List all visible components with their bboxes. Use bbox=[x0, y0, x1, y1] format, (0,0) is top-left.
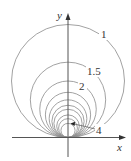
level-label-2: 2 bbox=[79, 80, 85, 92]
x-axis-arrow-icon bbox=[119, 135, 126, 140]
axes bbox=[12, 13, 126, 157]
x-axis-label: x bbox=[116, 141, 122, 153]
level-curves-diagram: y x 1 1.5 2 4 bbox=[0, 0, 131, 161]
level-label-1: 1 bbox=[101, 28, 107, 40]
y-axis-arrow-icon bbox=[66, 13, 71, 20]
y-axis-label: y bbox=[56, 9, 62, 21]
level-label-4: 4 bbox=[96, 124, 102, 136]
level-label-1-5: 1.5 bbox=[87, 65, 101, 77]
